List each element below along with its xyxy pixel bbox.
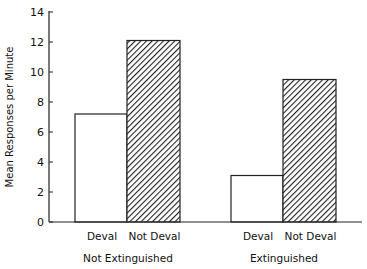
bar-not-extinguished-deval	[75, 114, 127, 222]
bar-chart: 02468101214 Mean Responses per Minute De…	[0, 0, 367, 269]
bar-extinguished-not-deval	[283, 80, 336, 223]
bar-label: Deval	[243, 230, 273, 242]
category-labels: DevalNot DevalDevalNot DevalNot Extingui…	[83, 230, 336, 264]
bars	[75, 41, 336, 223]
bar-label: Not Deval	[285, 230, 337, 242]
y-tick-label: 4	[37, 156, 44, 169]
group-label: Extinguished	[250, 252, 318, 264]
y-tick-label: 6	[37, 126, 44, 139]
y-tick-label: 2	[37, 186, 44, 199]
y-tick-label: 8	[37, 96, 44, 109]
bar-label: Deval	[87, 230, 117, 242]
y-tick-label: 0	[37, 216, 44, 229]
y-tick-label: 14	[30, 6, 44, 19]
bar-extinguished-deval	[231, 176, 283, 223]
group-label: Not Extinguished	[83, 252, 173, 264]
y-axis-label: Mean Responses per Minute	[4, 47, 15, 188]
bar-not-extinguished-not-deval	[127, 41, 180, 223]
y-tick-label: 12	[30, 36, 44, 49]
y-tick-label: 10	[30, 66, 44, 79]
bar-label: Not Deval	[129, 230, 181, 242]
